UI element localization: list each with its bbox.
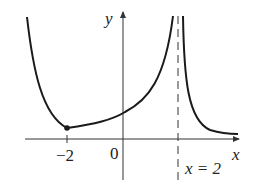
function-graph: y x −2 0 x = 2 [0, 0, 258, 193]
origin-label: 0 [110, 145, 119, 162]
local-min-point [64, 125, 70, 131]
x-axis-label: x [232, 146, 240, 163]
right-branch-curve [183, 16, 238, 134]
asymptote-label: x = 2 [185, 160, 221, 177]
left-branch-curve [27, 16, 173, 128]
y-axis-label: y [105, 10, 113, 27]
tick-label-neg2: −2 [56, 147, 74, 164]
